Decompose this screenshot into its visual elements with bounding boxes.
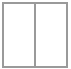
left-pane (4, 4, 34, 66)
right-pane (36, 4, 66, 66)
split-columns-icon (2, 2, 68, 68)
